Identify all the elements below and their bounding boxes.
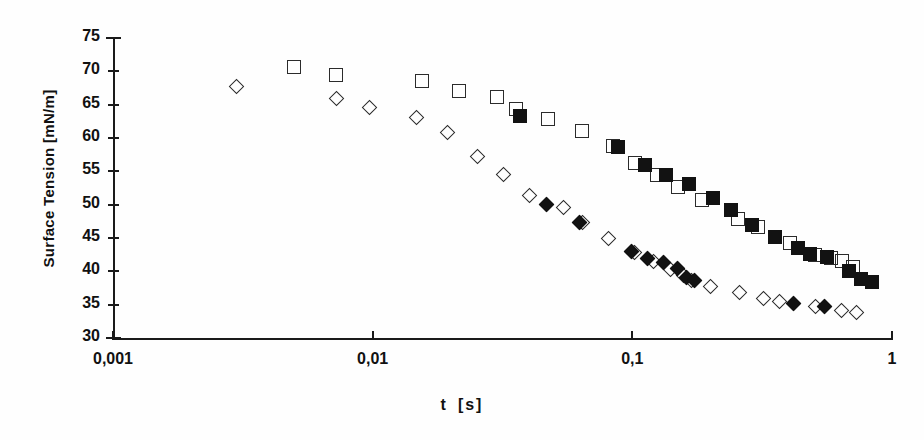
data-point-filled-squares xyxy=(768,230,782,244)
data-point-open-diamonds xyxy=(522,188,538,204)
data-point-filled-diamonds xyxy=(816,298,832,314)
data-point-filled-squares xyxy=(865,275,879,289)
data-point-filled-squares xyxy=(638,158,652,172)
data-point-open-squares xyxy=(452,84,466,98)
data-point-open-diamonds xyxy=(329,91,345,107)
data-point-filled-squares xyxy=(659,168,673,182)
data-point-open-diamonds xyxy=(732,285,748,301)
data-point-open-squares xyxy=(541,112,555,126)
data-point-filled-squares xyxy=(682,177,696,191)
chart-figure: Surface Tension [mN/m] t[s] 303540455055… xyxy=(0,0,924,440)
data-point-filled-diamonds xyxy=(786,296,802,312)
data-point-open-diamonds xyxy=(772,294,788,310)
data-point-open-squares xyxy=(287,60,301,74)
data-point-open-diamonds xyxy=(362,100,378,116)
data-markers xyxy=(0,0,924,440)
data-point-open-diamonds xyxy=(470,148,486,164)
data-point-filled-diamonds xyxy=(539,197,555,213)
data-point-open-squares xyxy=(329,68,343,82)
data-point-filled-squares xyxy=(820,250,834,264)
data-point-filled-squares xyxy=(611,140,625,154)
data-point-open-squares xyxy=(415,74,429,88)
data-point-filled-squares xyxy=(803,247,817,261)
data-point-open-diamonds xyxy=(600,230,616,246)
data-point-filled-squares xyxy=(706,191,720,205)
data-point-filled-squares xyxy=(724,203,738,217)
data-point-open-diamonds xyxy=(496,166,512,182)
data-point-open-diamonds xyxy=(440,125,456,141)
data-point-open-diamonds xyxy=(556,200,572,216)
data-point-open-diamonds xyxy=(755,290,771,306)
data-point-filled-squares xyxy=(745,218,759,232)
data-point-open-diamonds xyxy=(229,78,245,94)
data-point-open-diamonds xyxy=(833,302,849,318)
data-point-open-diamonds xyxy=(702,279,718,295)
data-point-open-squares xyxy=(490,90,504,104)
data-point-open-diamonds xyxy=(848,304,864,320)
data-point-open-diamonds xyxy=(409,110,425,126)
data-point-open-squares xyxy=(575,124,589,138)
data-point-filled-squares xyxy=(513,109,527,123)
